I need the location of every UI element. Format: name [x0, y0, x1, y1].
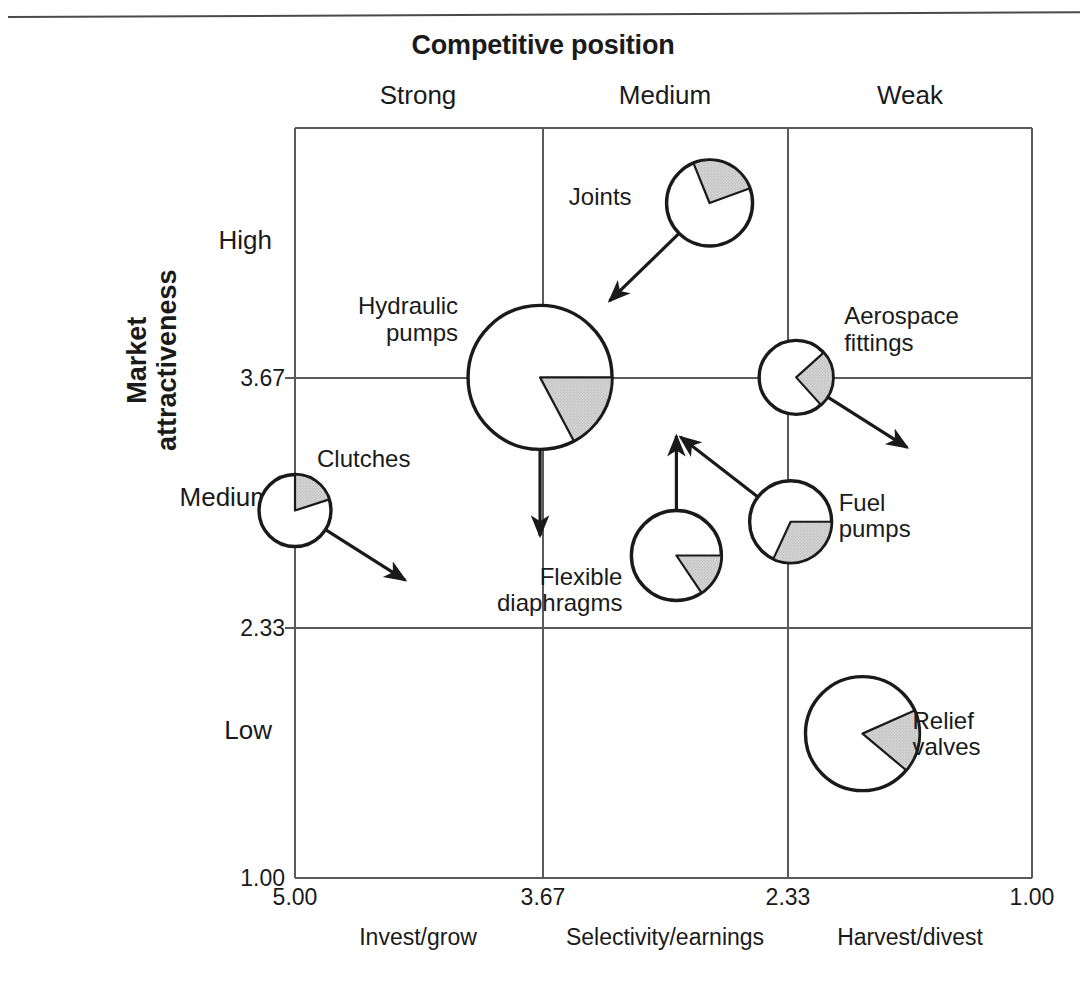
bubble-relief-valves[interactable]	[805, 677, 919, 791]
bubble-label-joints: Joints	[569, 184, 632, 210]
direction-arrow-down-right	[323, 528, 405, 580]
bubble-label-line: Aerospace	[844, 303, 959, 329]
bubble-label-line: Fuel	[839, 489, 911, 515]
bubble-hydraulic-pumps[interactable]	[468, 305, 612, 535]
bubble-label-relief-valves: Reliefvalves	[912, 707, 980, 760]
bubble-label-line: Joints	[569, 184, 632, 210]
matrix-plot	[0, 0, 1086, 992]
gridlines	[285, 128, 1032, 878]
bubble-label-line: Relief	[912, 707, 980, 733]
bubble-label-line: pumps	[839, 516, 911, 542]
bubble-joints[interactable]	[610, 160, 753, 301]
bubble-clutches[interactable]	[259, 475, 405, 581]
bubble-flexible-diaphragms[interactable]	[631, 436, 721, 600]
bubble-label-fuel-pumps: Fuelpumps	[839, 489, 911, 542]
direction-arrow-down-right	[825, 395, 907, 447]
bubble-label-line: diaphragms	[497, 590, 622, 616]
direction-arrow-up-left	[681, 437, 761, 499]
bubble-label-line: Flexible	[497, 563, 622, 589]
bubbles	[259, 160, 919, 791]
bubble-label-line: pumps	[358, 319, 458, 345]
bubble-label-clutches: Clutches	[317, 445, 410, 471]
chart-page: Competitive position Strong Medium Weak …	[0, 0, 1086, 992]
bubble-label-line: valves	[912, 734, 980, 760]
bubble-label-flexible-diaphragms: Flexiblediaphragms	[497, 563, 622, 616]
bubble-label-aerospace-fittings: Aerospacefittings	[844, 303, 959, 356]
bubble-label-line: fittings	[844, 329, 959, 355]
bubble-label-hydraulic-pumps: Hydraulicpumps	[358, 293, 458, 346]
bubble-label-line: Clutches	[317, 445, 410, 471]
bubble-label-line: Hydraulic	[358, 293, 458, 319]
direction-arrow-down-left	[610, 231, 682, 301]
bubble-aerospace-fittings[interactable]	[759, 340, 907, 447]
